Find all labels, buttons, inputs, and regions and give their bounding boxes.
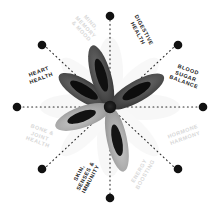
spoke-label-bone-joint-health: BONE & JOINT HEALTH (12, 118, 68, 154)
spoke-label-heart-health: HEART HEALTH (13, 60, 66, 90)
spoke-label-blood-sugar-balance: BLOOD SUGAR BALANCE (158, 58, 214, 94)
spoke-label-mind-memory-mood: MIND, MEMORY & MOOD (61, 1, 111, 53)
spoke-label-layer: MIND, MEMORY & MOOD DIGESTIVE HEALTH BLO… (0, 0, 220, 213)
health-benefit-wheel: MIND, MEMORY & MOOD DIGESTIVE HEALTH BLO… (0, 0, 220, 213)
spoke-label-skin-senses-immunity: SKIN, SENSES & IMMUNITY (64, 148, 106, 203)
spoke-label-energy-boosting: ENERGY BOOSTING (123, 147, 160, 199)
spoke-label-hormone-harmony: HORMONE HARMONY (157, 120, 210, 150)
spoke-label-digestive-health: DIGESTIVE HEALTH (123, 6, 159, 58)
